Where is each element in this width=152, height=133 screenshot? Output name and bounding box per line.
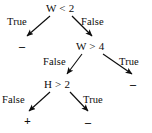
edge-label-root-true: True (7, 17, 27, 28)
edge-root-true (27, 16, 50, 36)
edge-label-root-false: False (81, 17, 104, 28)
tree-node-root: W < 2 (46, 3, 74, 14)
decision-tree-figure: W < 2 W > 4 H > 2 True False False True … (0, 0, 152, 133)
tree-leaf-negative-3: – (85, 116, 91, 128)
edge-h2-false (29, 92, 50, 111)
tree-leaf-positive: + (24, 115, 31, 127)
tree-leaf-negative-2: – (130, 78, 136, 90)
edge-label-h2-true: True (83, 95, 103, 106)
tree-node-h-gt-2: H > 2 (44, 79, 70, 90)
edge-label-w4-true: True (119, 57, 139, 68)
edge-w4-false (67, 54, 82, 74)
tree-leaf-negative-1: – (19, 40, 25, 52)
edge-label-h2-false: False (2, 95, 25, 106)
edge-label-w4-false: False (43, 57, 66, 68)
tree-node-w-gt-4: W > 4 (76, 41, 104, 52)
